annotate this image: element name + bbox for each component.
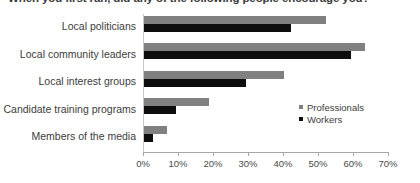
- x-tick-label: 10%: [158, 158, 198, 169]
- legend-swatch-icon: [299, 105, 303, 109]
- legend-swatch-icon: [299, 117, 303, 121]
- x-tick-label: 40%: [263, 158, 303, 169]
- bar-workers: [144, 79, 246, 87]
- legend-label: Workers: [307, 114, 342, 125]
- x-tick-label: 20%: [193, 158, 233, 169]
- bar-workers: [144, 106, 176, 114]
- bar-professionals: [144, 16, 326, 24]
- bar-professionals: [144, 98, 209, 106]
- bar-professionals: [144, 126, 167, 134]
- bar-row: Members of the media: [0, 125, 420, 153]
- category-label: Local community leaders: [0, 48, 136, 60]
- bar-professionals: [144, 71, 284, 79]
- category-label: Candidate training programs: [0, 103, 136, 115]
- bar-row: Local community leaders: [0, 43, 420, 71]
- x-tick-label: 0%: [123, 158, 163, 169]
- bar-row: Local interest groups: [0, 70, 420, 98]
- legend-entry: Workers: [299, 113, 364, 125]
- bar-professionals: [144, 43, 365, 51]
- bar-row: Local politicians: [0, 15, 420, 43]
- x-tick-label: 60%: [333, 158, 373, 169]
- bar-workers: [144, 134, 153, 142]
- x-tick-label: 50%: [298, 158, 338, 169]
- category-label: Local politicians: [0, 20, 136, 32]
- chart-legend: ProfessionalsWorkers: [299, 101, 364, 125]
- legend-entry: Professionals: [299, 101, 364, 113]
- x-tick-label: 70%: [368, 158, 408, 169]
- x-tick-label: 30%: [228, 158, 268, 169]
- chart-title: When you first ran, did any of the follo…: [8, 0, 412, 6]
- bar-chart-figure: When you first ran, did any of the follo…: [0, 0, 420, 183]
- bar-workers: [144, 51, 351, 59]
- legend-label: Professionals: [307, 102, 364, 113]
- bar-workers: [144, 24, 291, 32]
- category-label: Members of the media: [0, 130, 136, 142]
- category-label: Local interest groups: [0, 75, 136, 87]
